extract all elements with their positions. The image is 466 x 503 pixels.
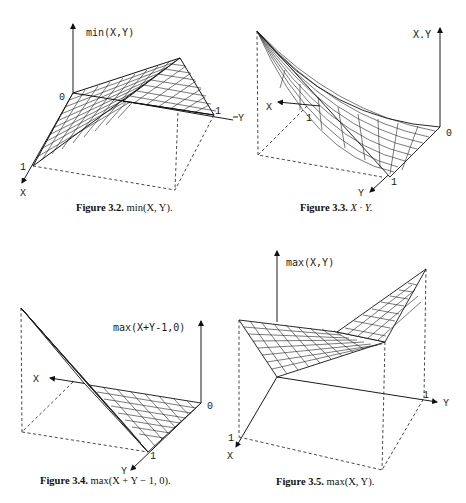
figure-3-5-plot: max(X,Y) 1 1 Y X — [227, 251, 449, 470]
figure-3-3-caption: Figure 3.3. X · Y. — [300, 202, 372, 213]
caption-expression: max(X, Y). — [327, 476, 375, 487]
x-axis-label: X — [227, 451, 233, 462]
caption-label: Figure 3.3. — [300, 202, 348, 213]
z-axis-label: max(X,Y) — [286, 257, 334, 268]
surface — [257, 31, 440, 177]
base-outline — [239, 398, 424, 470]
z-axis-label: max(X+Y-1,0) — [113, 322, 185, 333]
figure-3-3-plot: X.Y 0 1 1 X Y Y — [233, 28, 452, 199]
y-axis-label-left: Y — [238, 113, 244, 124]
origin-tick: 0 — [59, 92, 65, 103]
mid-corner-drop — [382, 342, 385, 470]
y-one-tick: 1 — [215, 106, 221, 117]
x-axis-label: X — [20, 188, 26, 199]
figure-3-2-caption: Figure 3.2. min(X, Y). — [76, 202, 173, 213]
figure-3-4-caption: Figure 3.4. max(X + Y − 1, 0). — [40, 475, 171, 486]
z-axis-label: X.Y — [413, 29, 431, 40]
y-axis-label: Y — [443, 398, 449, 409]
corner-drop-line — [21, 308, 22, 432]
y-axis-label: Y — [358, 188, 364, 199]
z-axis-label: min(X,Y) — [86, 27, 134, 38]
peak-drop-line — [424, 269, 426, 398]
caption-label: Figure 3.2. — [76, 202, 124, 213]
y-axis — [277, 377, 437, 402]
origin-tick: 0 — [207, 401, 213, 412]
y-one-tick: 1 — [150, 451, 156, 462]
x-one-tick: 1 — [20, 162, 26, 173]
caption-expression: max(X + Y − 1, 0). — [91, 475, 171, 486]
x-axis — [236, 377, 277, 447]
origin-tick: 0 — [446, 128, 452, 139]
surface-flat — [89, 385, 201, 452]
corner-drop-line — [257, 31, 258, 155]
x-axis-label: X — [33, 374, 39, 385]
x-axis-label: X — [266, 102, 272, 113]
x-axis — [278, 102, 320, 106]
x-one-tick: 1 — [228, 433, 234, 444]
caption-expression: X · Y. — [351, 202, 373, 213]
y-one-tick: 1 — [423, 390, 429, 401]
figure-3-4-plot: max(X+Y-1,0) 0 1 X Y — [21, 308, 213, 477]
caption-label: Figure 3.5. — [276, 476, 324, 487]
x-one-tick: 1 — [306, 113, 312, 124]
y-one-tick: 1 — [391, 177, 397, 188]
caption-label: Figure 3.4. — [40, 475, 88, 486]
caption-expression: min(X, Y). — [127, 202, 173, 213]
figure-page: min(X,Y) 0 1 1 X X.Y 0 1 1 X Y Y — [0, 0, 466, 503]
surface-facet-y — [337, 269, 426, 342]
figure-3-2-plot: min(X,Y) 0 1 1 X — [20, 24, 233, 199]
figure-3-5-caption: Figure 3.5. max(X, Y). — [276, 476, 374, 487]
